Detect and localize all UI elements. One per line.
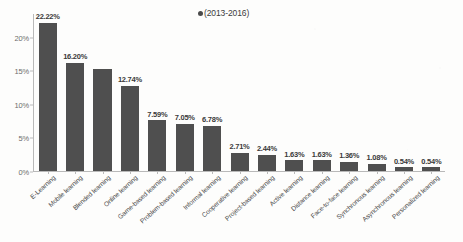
- bar[interactable]: 1.36%: [340, 162, 358, 171]
- bar-chart: (2013-2016) 0%5%10%15%20% 22.22%16.20%12…: [0, 0, 463, 242]
- bar-slot: 6.78%: [198, 14, 225, 171]
- bar[interactable]: 12.74%: [121, 86, 139, 171]
- bar-slot: 7.05%: [171, 14, 198, 171]
- bar[interactable]: 1.63%: [285, 160, 303, 171]
- bar-slot: 2.71%: [226, 14, 253, 171]
- bar[interactable]: 2.44%: [258, 155, 276, 171]
- x-label-slot: Project-based learning: [254, 172, 281, 242]
- bar-slot: 1.63%: [281, 14, 308, 171]
- bar-value-label: 22.22%: [36, 12, 60, 21]
- bar[interactable]: 6.78%: [203, 126, 221, 171]
- y-tick-label: 20%: [15, 33, 29, 42]
- y-tick-label: 10%: [15, 100, 29, 109]
- bar-slot: 1.36%: [335, 14, 362, 171]
- bar-slot: 1.08%: [363, 14, 390, 171]
- bar-value-label: 7.05%: [175, 113, 195, 122]
- bar-slot: 7.59%: [144, 14, 171, 171]
- bar-slot: 22.22%: [34, 14, 61, 171]
- bar-series: 22.22%16.20%12.74%7.59%7.05%6.78%2.71%2.…: [34, 14, 445, 171]
- bar-value-label: 12.74%: [118, 75, 142, 84]
- bar-slot: 12.74%: [116, 14, 143, 171]
- bar-value-label: 1.63%: [284, 150, 304, 159]
- bar-value-label: 0.54%: [421, 157, 441, 166]
- x-label-slot: Blended learning: [89, 172, 116, 242]
- y-tick-label: 5%: [19, 134, 29, 143]
- x-label-slot: Personalized learning: [419, 172, 446, 242]
- y-tick-label: 15%: [15, 67, 29, 76]
- bar[interactable]: 16.20%: [66, 63, 84, 171]
- bar[interactable]: [93, 69, 111, 171]
- bar-value-label: 1.63%: [312, 150, 332, 159]
- x-axis-label: E-Learning: [28, 174, 56, 200]
- bar-slot: 0.54%: [390, 14, 417, 171]
- bar-value-label: 2.44%: [257, 144, 277, 153]
- bar-value-label: 2.71%: [230, 142, 250, 151]
- y-tick-label: 0%: [19, 168, 29, 177]
- bar[interactable]: 7.05%: [176, 124, 194, 171]
- y-tick-mark: [30, 37, 33, 38]
- bar-value-label: 1.36%: [339, 151, 359, 160]
- y-tick-mark: [30, 138, 33, 139]
- bar-slot: [89, 14, 116, 171]
- y-tick-mark: [30, 104, 33, 105]
- bar[interactable]: 2.71%: [231, 153, 249, 171]
- bar-value-label: 6.78%: [202, 115, 222, 124]
- x-axis-category-labels: E-LearningMobile learningBlended learnin…: [34, 172, 446, 242]
- bar[interactable]: 1.63%: [313, 160, 331, 171]
- bar-value-label: 16.20%: [63, 52, 87, 61]
- y-tick-mark: [30, 71, 33, 72]
- y-tick-mark: [30, 172, 33, 173]
- bar[interactable]: 1.08%: [368, 164, 386, 171]
- bar[interactable]: 22.22%: [39, 23, 57, 171]
- bar-value-label: 1.08%: [367, 153, 387, 162]
- bar[interactable]: 7.59%: [148, 120, 166, 171]
- bar-slot: 16.20%: [61, 14, 88, 171]
- bar-slot: 1.63%: [308, 14, 335, 171]
- x-label-slot: E-Learning: [34, 172, 61, 242]
- bar-slot: 0.54%: [418, 14, 445, 171]
- bar-value-label: 7.59%: [147, 110, 167, 119]
- bar-value-label: 0.54%: [394, 157, 414, 166]
- bar-slot: 2.44%: [253, 14, 280, 171]
- plot-area: 0%5%10%15%20% 22.22%16.20%12.74%7.59%7.0…: [33, 14, 445, 172]
